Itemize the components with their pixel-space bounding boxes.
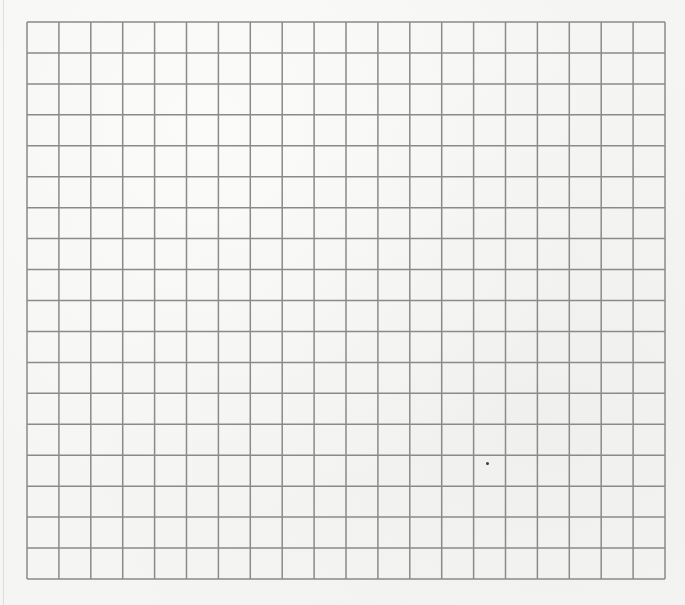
scan-edge-line: [3, 0, 4, 605]
graph-grid: [27, 22, 665, 579]
ink-speck: [486, 462, 489, 465]
grid-lines: [27, 22, 665, 579]
